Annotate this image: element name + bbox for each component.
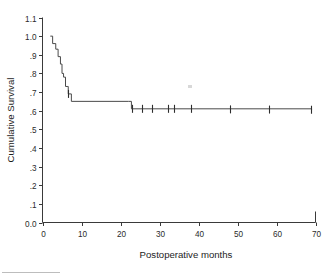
y-tick-label: .6 (30, 108, 37, 117)
y-tick-label: .4 (30, 145, 37, 154)
y-tick-label: 1.0 (25, 33, 37, 42)
x-tick-label: 20 (117, 230, 127, 239)
y-tick-label: .1 (30, 201, 37, 210)
x-tick-label: 50 (234, 230, 244, 239)
scan-speck (188, 85, 192, 88)
x-tick-label: 30 (156, 230, 166, 239)
x-tick-label: 10 (78, 230, 88, 239)
y-tick-label: .5 (30, 126, 37, 135)
y-tick-label: 0.0 (25, 220, 37, 229)
y-tick-label: .7 (30, 89, 37, 98)
x-tick-label: 0 (41, 230, 46, 239)
x-tick-label: 60 (273, 230, 283, 239)
y-tick-label: .8 (30, 70, 37, 79)
figure-background (0, 0, 333, 276)
y-tick-label: .3 (30, 164, 37, 173)
kaplan-meier-plot: 0.0.1.2.3.4.5.6.7.8.91.01.1 010203040506… (0, 0, 333, 276)
x-tick-label: 40 (195, 230, 205, 239)
y-axis-title: Cumulative Survival (5, 78, 16, 163)
y-tick-label: .2 (30, 182, 37, 191)
y-tick-label: .9 (30, 52, 37, 61)
x-tick-label: 70 (312, 230, 322, 239)
survival-chart-figure: 0.0.1.2.3.4.5.6.7.8.91.01.1 010203040506… (0, 0, 333, 276)
y-tick-label: 1.1 (25, 15, 37, 24)
x-axis-title: Postoperative months (140, 249, 233, 260)
